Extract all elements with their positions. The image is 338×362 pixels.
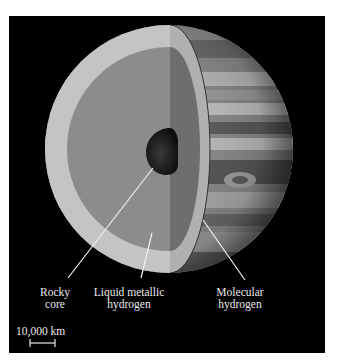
label-molecular-hydrogen: Molecular hydrogen <box>208 287 272 310</box>
label-rocky-core-line2: core <box>30 299 80 311</box>
label-molecular-line2: hydrogen <box>208 299 272 311</box>
label-liquid-metallic-hydrogen: Liquid metallic hydrogen <box>88 287 170 310</box>
scale-bar-label: 10,000 km <box>16 326 65 338</box>
label-rocky-core: Rocky core <box>30 287 80 310</box>
label-liquid-metallic-line2: hydrogen <box>88 299 170 311</box>
label-liquid-metallic-line1: Liquid metallic <box>88 287 170 299</box>
scale-bar <box>30 339 55 347</box>
label-molecular-line1: Molecular <box>208 287 272 299</box>
label-rocky-core-line1: Rocky <box>30 287 80 299</box>
